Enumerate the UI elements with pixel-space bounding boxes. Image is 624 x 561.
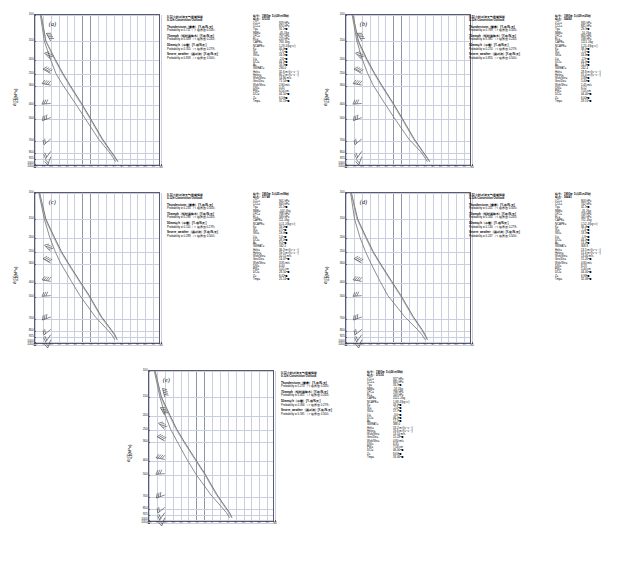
grid-line-horizontal — [149, 523, 273, 524]
curve-dewpoint — [40, 15, 115, 161]
outlook-item-probability: Probability = 0.769（ > 临界值 0.500） — [469, 29, 520, 32]
outlook-item-probability: Probability = 0.366（ > 临界值 0.279） — [281, 404, 332, 407]
y-axis-tick-label: 400 — [340, 281, 345, 284]
x-axis-tick-label: 80 — [470, 166, 473, 169]
y-axis-tick-label: 500 — [29, 117, 34, 120]
y-axis-tick-label: 500 — [340, 117, 345, 120]
y-axis-tick-label: 150 — [340, 40, 345, 43]
y-axis-tick-label: 925 — [143, 513, 148, 516]
outlook-item: 70mmph（短时强降水）[Y-有/N-无]Probability = 0.16… — [469, 213, 520, 220]
grid-line-horizontal — [35, 167, 159, 168]
y-axis-tick-label: 200 — [340, 58, 345, 61]
y-axis-title: 气压(hPa) — [126, 445, 132, 462]
sounding-plot-d: -80-70-60-50-40-30-20-100102030405060708… — [345, 192, 471, 344]
curve-dewpoint — [39, 193, 115, 339]
y-axis-tick-label: 250 — [143, 429, 148, 432]
parameter-key: Tmp= — [555, 100, 562, 103]
y-axis-tick-label: 200 — [29, 236, 34, 239]
grid-line-horizontal — [346, 167, 470, 168]
y-axis-tick-label: 250 — [29, 251, 34, 254]
parameter-value: 33.46℃ — [393, 456, 403, 459]
sounding-parameter-table: 站号：1991年 5月26日08时站点：57516LCL=927 hPaCCL=… — [367, 371, 403, 459]
y-axis-tick-label: 700 — [143, 495, 148, 498]
sounding-curves — [149, 371, 273, 521]
y-tick — [148, 523, 150, 524]
grid-line-vertical — [161, 193, 162, 343]
y-axis-tick-label: 150 — [143, 396, 148, 399]
curve-parcel — [353, 15, 430, 161]
y-tick — [34, 345, 36, 346]
convection-outlook-block: 0-12小时对流天气展望预报0-12h Convection Outlook T… — [167, 16, 218, 63]
outlook-item: Severe_weather（强对流）[Y-有/N-无]Probability … — [469, 53, 520, 60]
convection-outlook-block: 0-12小时对流天气展望预报0-12h Convection Outlook T… — [167, 194, 218, 241]
y-axis-tick-label: 850 — [340, 330, 345, 333]
figure-sheet: -80-70-60-50-40-30-20-100102030405060708… — [0, 0, 624, 561]
parameter-key: Tmp= — [253, 100, 260, 103]
curve-dewpoint — [352, 15, 427, 161]
parameter-value: 29.51℃ — [581, 100, 591, 103]
outlook-item-probability: Probability = 0.134（ < 临界值 0.279） — [469, 226, 520, 229]
y-axis-tick-label: 250 — [340, 251, 345, 254]
outlook-item: Thunderstorm（雷暴）[Y-有/N-无]Probability = 0… — [281, 382, 332, 389]
y-axis-tick-label: 300 — [143, 440, 148, 443]
outlook-item-probability: Probability = 0.711（ > 临界值 0.500） — [167, 29, 218, 32]
parameter-row: Tmp=29.51℃ — [555, 100, 591, 103]
y-tick — [345, 345, 347, 346]
outlook-item: Severe_weather（强对流）[Y-有/N-无]Probability … — [281, 409, 332, 416]
outlook-item: 70mmph（短时强降水）[Y-有/N-无]Probability = 0.38… — [469, 35, 520, 42]
panel-label: (c) — [49, 198, 56, 205]
outlook-item-probability: Probability = 0.289（ < 临界值 0.500） — [167, 235, 218, 238]
outlook-item-probability: Probability = 0.110（ < 临界值 0.279） — [167, 226, 218, 229]
sounding-curves — [346, 193, 470, 343]
panel-label: (b) — [360, 20, 367, 27]
curve-temperature — [40, 193, 118, 339]
y-axis-tick-label: 500 — [29, 295, 34, 298]
y-axis-tick-label: 1050 — [338, 165, 344, 168]
y-axis-tick-label: 925 — [29, 157, 34, 160]
outlook-item: Thunderstorm（雷暴）[Y-有/N-无]Probability = 0… — [469, 26, 520, 33]
y-axis-tick-label: 100 — [143, 369, 148, 372]
y-axis-tick-label: 300 — [29, 84, 34, 87]
y-axis-tick-label: 700 — [29, 139, 34, 142]
outlook-item: Thunderstorm（雷暴）[Y-有/N-无]Probability = 0… — [167, 204, 218, 211]
sounding-plot-e: -80-70-60-50-40-30-20-100102030405060708… — [148, 370, 274, 522]
curve-temperature — [353, 15, 430, 161]
y-axis-title: 气压(hPa) — [323, 89, 329, 106]
y-axis-tick-label: 1050 — [141, 521, 147, 524]
parameter-key: Tmp= — [367, 456, 374, 459]
y-axis-title: 气压(hPa) — [12, 89, 18, 106]
sounding-parameter-table: 站号：1991年 5月29日20时站点：56492LCL=935 hPaCCL=… — [555, 15, 591, 103]
y-axis-tick-label: 700 — [340, 139, 345, 142]
y-axis-tick-label: 925 — [340, 335, 345, 338]
y-axis-tick-label: 1050 — [27, 343, 33, 346]
y-axis-tick-label: 300 — [340, 262, 345, 265]
y-axis-tick-label: 100 — [340, 13, 345, 16]
parameter-row: Tmp=25.14℃ — [253, 278, 289, 281]
outlook-item-probability: Probability = 0.235（ < 临界值 0.500） — [167, 207, 218, 210]
parameter-key: Tmp= — [253, 278, 260, 281]
outlook-item-probability: Probability = 0.355（ < 临界值 0.279） — [167, 48, 218, 51]
x-axis-tick-label: 80 — [470, 344, 473, 347]
y-axis-tick-label: 500 — [143, 473, 148, 476]
panel-label: (e) — [163, 376, 170, 383]
outlook-item-probability: Probability = 0.196（ < 临界值 0.240） — [167, 216, 218, 219]
outlook-item: 70mmph（短时强降水）[Y-有/N-无]Probability = 0.40… — [281, 391, 332, 398]
parameter-key: Tmp= — [555, 278, 562, 281]
parameter-value: 25.14℃ — [279, 278, 289, 281]
curve-parcel — [40, 193, 118, 339]
curve-parcel — [351, 193, 427, 339]
y-axis-tick-label: 300 — [29, 262, 34, 265]
y-axis-tick-label: 150 — [29, 218, 34, 221]
y-axis-tick-label: 200 — [143, 414, 148, 417]
y-axis-tick-label: 150 — [29, 40, 34, 43]
y-axis-tick-label: 925 — [29, 335, 34, 338]
grid-line-vertical — [161, 15, 162, 165]
y-axis-tick-label: 850 — [29, 152, 34, 155]
y-axis-tick-label: 300 — [340, 84, 345, 87]
outlook-item: Severe_weather（强对流）[Y-有/N-无]Probability … — [167, 53, 218, 60]
outlook-item: 50mm以h（冰雹）[Y-有/N-无]Probability = 0.355（ … — [167, 44, 218, 51]
convection-outlook-block: 0-12小时对流天气展望预报0-12h Convection Outlook T… — [469, 16, 520, 63]
grid-line-horizontal — [346, 345, 470, 346]
parameter-value: 32.08℃ — [581, 278, 591, 281]
panel-label: (d) — [360, 198, 367, 205]
